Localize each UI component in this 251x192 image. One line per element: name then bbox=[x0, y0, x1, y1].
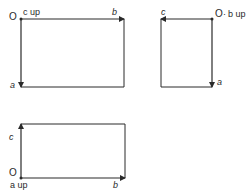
separator: · bbox=[223, 10, 226, 19]
origin-dot bbox=[211, 18, 214, 21]
origin-label: O bbox=[9, 12, 17, 22]
axis-label-a: a bbox=[217, 78, 222, 87]
diagram-c-up bbox=[20, 18, 125, 88]
axis-label-c: c bbox=[9, 133, 14, 142]
axis-label-b: b bbox=[113, 181, 118, 190]
axis-label-b: b bbox=[112, 8, 117, 17]
origin-label: O bbox=[9, 168, 17, 178]
axes-diagram bbox=[0, 0, 251, 192]
diagram-b-up bbox=[161, 18, 214, 88]
up-label: c up bbox=[23, 8, 40, 17]
origin-dot bbox=[20, 18, 23, 21]
origin-label: O bbox=[215, 9, 223, 19]
axis-label-c: c bbox=[161, 8, 166, 17]
axis-label-a: a bbox=[10, 81, 15, 90]
up-label: b up bbox=[228, 10, 246, 19]
up-label: a up bbox=[10, 181, 28, 190]
diagram-a-up bbox=[20, 124, 126, 180]
